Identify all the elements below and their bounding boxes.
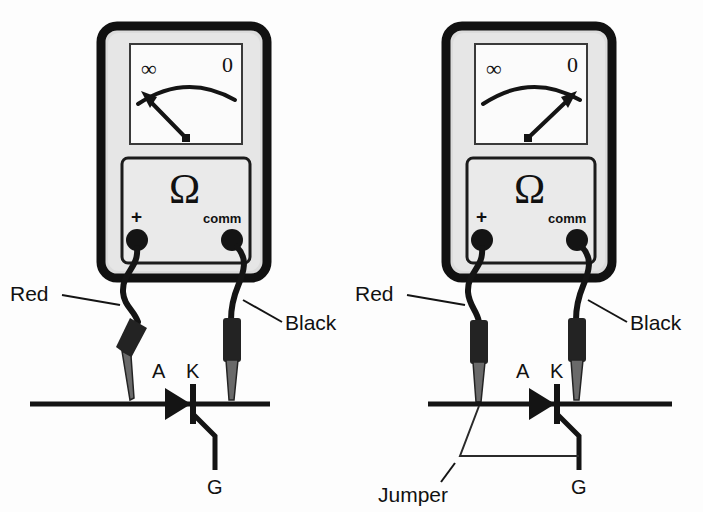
scr-gate-lead [193,414,215,470]
scr-cathode-label: K [550,360,564,382]
black-label-leader [588,300,627,322]
terminal-label-comm: comm [203,211,241,226]
terminal-label-positive: + [476,206,487,227]
scr-gate-lead [557,414,579,470]
black-label-leader [243,300,282,322]
scale-label-zero: 0 [222,52,233,77]
ohm-symbol: Ω [169,166,200,212]
scale-label-infinity: ∞ [486,56,502,81]
scr-gate-label: G [207,476,223,498]
diagram-canvas: ∞ 0 Ω + comm Red B [0,0,703,512]
black-probe-label: Black [630,311,682,334]
red-probe-tip [473,362,485,402]
meter-needle-pivot [182,134,190,142]
scr-cathode-label: K [186,360,200,382]
terminal-label-comm: comm [548,211,586,226]
panel-right: ∞ 0 Ω + comm Red Black [355,26,682,506]
jumper-wire [460,406,579,456]
scr-circuit-right: A K G Jumper [378,360,672,506]
panel-left: ∞ 0 Ω + comm Red B [10,26,337,498]
scr-anode-label: A [152,360,166,382]
red-probe-handle [470,320,488,364]
scr-anode-triangle [529,388,555,420]
red-probe-assembly-left: Red [10,248,147,400]
jumper-label-leader [441,463,455,482]
meter-needle-pivot [524,134,532,142]
scale-label-infinity: ∞ [141,56,157,81]
red-label-leader [407,295,465,305]
black-probe-handle [568,318,586,362]
scr-anode-label: A [516,360,530,382]
scale-label-zero: 0 [567,52,578,77]
scr-gate-label: G [571,476,587,498]
terminal-label-positive: + [131,206,142,227]
black-probe-label: Black [285,311,337,334]
jumper-label: Jumper [378,483,448,506]
red-probe-label: Red [10,282,49,305]
black-probe-handle [223,318,241,362]
scr-anode-triangle [165,388,191,420]
meter-left: ∞ 0 Ω + comm [101,26,267,278]
red-probe-handle [116,318,147,358]
meter-right: ∞ 0 Ω + comm [446,26,612,278]
ohm-symbol: Ω [514,166,545,212]
red-label-leader [62,295,120,305]
black-probe-tip [571,360,583,400]
black-probe-tip [226,360,238,400]
red-probe-label: Red [355,282,394,305]
red-probe-tip [122,351,134,400]
